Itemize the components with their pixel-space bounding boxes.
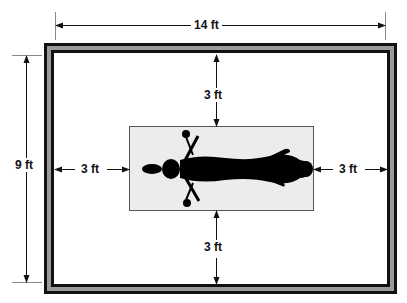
clearance-bottom-label: 3 ft xyxy=(201,240,225,254)
clearance-top-label: 3 ft xyxy=(201,88,225,102)
room-diagram xyxy=(0,0,407,303)
clearance-left-label: 3 ft xyxy=(78,162,102,176)
clearance-right-label: 3 ft xyxy=(336,162,360,176)
room-height-label: 9 ft xyxy=(12,158,36,172)
room-width-label: 14 ft xyxy=(191,18,222,32)
